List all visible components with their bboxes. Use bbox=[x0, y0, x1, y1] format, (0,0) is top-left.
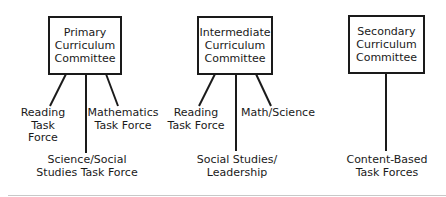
secondary-committee-box: Secondary Curriculum Committee bbox=[348, 15, 425, 74]
committee-name-line: Curriculum bbox=[205, 39, 265, 52]
task-force-secondary-content-based: Content-Based Task Forces bbox=[346, 154, 427, 179]
committee-name-line: Curriculum bbox=[55, 39, 115, 52]
committee-name-line: Curriculum bbox=[356, 38, 416, 51]
bottom-divider bbox=[8, 195, 446, 196]
committee-name-line: Primary bbox=[64, 26, 107, 39]
task-force-intermediate-math-science: Math/Science bbox=[241, 107, 315, 120]
connector-intermediate-reading bbox=[199, 74, 215, 106]
intermediate-committee-box: Intermediate Curriculum Committee bbox=[197, 16, 273, 75]
committee-name-line: Committee bbox=[54, 52, 115, 65]
committee-name-line: Intermediate bbox=[200, 26, 271, 39]
connector-primary-mathematics bbox=[106, 74, 118, 106]
task-force-intermediate-reading: Reading Task Force bbox=[168, 107, 225, 132]
task-force-primary-reading: Reading Task Force bbox=[21, 107, 66, 145]
committee-name-line: Secondary bbox=[357, 25, 415, 38]
committee-name-line: Committee bbox=[204, 52, 265, 65]
connector-primary-reading bbox=[50, 74, 66, 106]
task-force-primary-mathematics: Mathematics Task Force bbox=[88, 107, 159, 132]
task-force-primary-science-social-studies: Science/Social Studies Task Force bbox=[36, 154, 137, 179]
task-force-intermediate-social-studies-leadership: Social Studies/ Leadership bbox=[197, 154, 278, 179]
connector-intermediate-math-science bbox=[256, 74, 271, 106]
primary-committee-box: Primary Curriculum Committee bbox=[48, 16, 122, 75]
committee-name-line: Committee bbox=[356, 51, 417, 64]
